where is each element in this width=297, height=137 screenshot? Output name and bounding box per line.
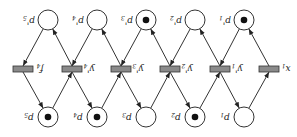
- transition-x1: x1: [259, 63, 290, 74]
- arc: [121, 29, 141, 66]
- transition-bar: [259, 66, 279, 72]
- token: [192, 114, 199, 121]
- arc: [102, 72, 121, 108]
- place-label: p'5: [23, 15, 35, 26]
- place-label: p1: [220, 112, 230, 123]
- place-label: p'2: [170, 15, 182, 26]
- arc: [249, 29, 269, 66]
- place-p1: p1: [220, 107, 254, 127]
- transition-label: y'2: [181, 63, 194, 74]
- place-label: p2: [171, 112, 181, 123]
- place-label: p4: [73, 112, 83, 123]
- arc: [23, 72, 43, 108]
- place-label: p5: [24, 112, 34, 123]
- transition-label: f4: [36, 63, 44, 74]
- arc: [170, 29, 190, 66]
- transition-yprime-1: y'1: [210, 63, 244, 74]
- transition-bar: [62, 66, 82, 72]
- transition-label: x1: [282, 63, 291, 74]
- place-circle: [185, 10, 205, 30]
- place-circle: [234, 107, 254, 127]
- place-circle: [136, 107, 156, 127]
- transition-bar: [210, 66, 230, 72]
- transition-bar: [13, 66, 33, 72]
- place-label: p'1: [219, 15, 231, 26]
- transition-label: y'1: [231, 63, 243, 74]
- arc: [121, 72, 141, 108]
- arc: [151, 72, 170, 108]
- token: [241, 17, 248, 24]
- transition-f4: f4: [13, 63, 45, 74]
- place-p2: p2: [171, 107, 205, 127]
- transition-label: y'3: [132, 63, 145, 74]
- place-label: p'4: [72, 15, 84, 26]
- transition-bar: [111, 66, 131, 72]
- place-pprime-2: p'2: [170, 10, 205, 30]
- arc: [53, 29, 72, 66]
- transition-bar: [160, 66, 180, 72]
- arc: [200, 29, 220, 66]
- arc: [53, 72, 72, 108]
- place-pprime-1: p'1: [219, 10, 254, 30]
- token: [45, 114, 52, 121]
- transitions: f4y'4y'3y'2y'1x1: [13, 63, 290, 74]
- place-p5: p5: [24, 107, 58, 127]
- arc: [249, 72, 269, 108]
- arc: [72, 29, 92, 66]
- place-p4: p4: [73, 107, 107, 127]
- arc: [200, 72, 220, 108]
- arc: [151, 29, 170, 66]
- place-label: p3: [122, 112, 132, 123]
- place-pprime-4: p'4: [72, 10, 107, 30]
- place-label: p'3: [121, 15, 133, 26]
- token: [94, 114, 101, 121]
- place-circle: [87, 10, 107, 30]
- arc: [220, 72, 239, 108]
- place-pprime-3: p'3: [121, 10, 156, 30]
- transition-yprime-3: y'3: [111, 63, 145, 74]
- arc: [23, 29, 43, 66]
- transition-yprime-4: y'4: [62, 63, 96, 74]
- token: [143, 17, 150, 24]
- arc: [102, 29, 121, 66]
- place-pprime-5: p'5: [23, 10, 58, 30]
- petri-net-diagram: p'5p'4p'3p'2p'1p5p4p3p2p1 f4y'4y'3y'2y'1…: [0, 0, 297, 137]
- transition-yprime-2: y'2: [160, 63, 194, 74]
- place-p3: p3: [122, 107, 156, 127]
- arc: [72, 72, 92, 108]
- arc: [220, 29, 239, 66]
- arc: [170, 72, 190, 108]
- transition-label: y'4: [83, 63, 96, 74]
- place-circle: [38, 10, 58, 30]
